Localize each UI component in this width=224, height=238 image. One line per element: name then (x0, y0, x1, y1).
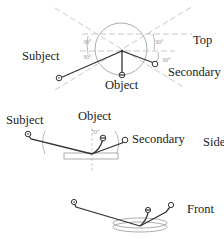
top-view-label: Top (193, 33, 212, 47)
subject-node-icon (56, 75, 62, 81)
angle-label: 30° (83, 39, 92, 45)
lighting-setup-diagram: 30° 30° 30° 30° Top Subject Object Secon… (0, 0, 224, 238)
rotation-arc-right (115, 131, 119, 153)
secondary-node-icon (152, 61, 158, 67)
angle-arc-secondary (156, 52, 159, 62)
subject-arm (74, 203, 140, 226)
secondary-node-icon (168, 202, 173, 207)
angle-label: 70° (91, 129, 100, 135)
object-node-icon (100, 135, 106, 141)
side-view-label: Side (203, 135, 224, 149)
subject-label: Subject (22, 49, 60, 63)
secondary-arm (122, 51, 154, 63)
turntable-top (113, 218, 167, 228)
object-node-icon (119, 72, 125, 78)
subject-node-icon (71, 199, 76, 204)
subject-node-icon (25, 131, 31, 137)
secondary-label: Secondary (168, 65, 222, 79)
object-label: Object (105, 78, 139, 92)
angle-label: 30° (155, 39, 164, 45)
object-node-icon (145, 207, 150, 212)
front-view: Front (71, 199, 214, 232)
object-label: Object (78, 109, 112, 123)
top-view: 30° 30° 30° 30° Top Subject Object Secon… (22, 6, 222, 92)
secondary-node-icon (122, 137, 128, 143)
angle-label: 30° (83, 54, 92, 60)
subject-label: Subject (6, 113, 44, 127)
turntable-bottom (113, 222, 167, 232)
secondary-arm (92, 141, 124, 154)
side-view: Subject Object Secondary Side 70° (6, 109, 224, 172)
front-view-label: Front (187, 202, 215, 216)
center-point (121, 50, 123, 52)
angle-label: 30° (162, 57, 171, 63)
secondary-label: Secondary (132, 132, 186, 146)
subject-arm (29, 136, 92, 154)
